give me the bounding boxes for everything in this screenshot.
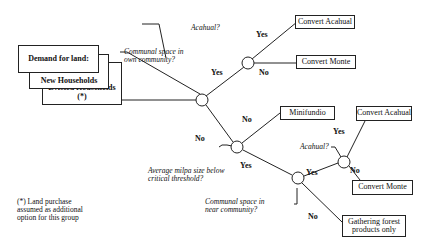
edge-label-own-no: No — [195, 134, 205, 143]
edge-label-milpa-no: No — [242, 115, 252, 124]
outcome-minifundio: Minifundio — [280, 106, 335, 120]
outcome-label: Convert Monte — [302, 58, 351, 66]
edge-label-acahual-top-yes: Yes — [256, 30, 268, 39]
edge-label-near-no: No — [308, 212, 318, 221]
demand-for-land-box: Demand for land: — [18, 45, 99, 73]
edge-label-near-yes: Yes — [306, 168, 318, 177]
outcome-convert-monte-bottom: Convert Monte — [352, 180, 413, 195]
node-near-community — [292, 172, 304, 184]
node-acahual-bottom — [338, 156, 350, 168]
outcome-convert-monte-top: Convert Monte — [296, 55, 356, 69]
outcome-label: Convert Monte — [358, 183, 407, 191]
node-own-community — [196, 94, 208, 106]
demand-for-land-title: Demand for land: — [28, 55, 89, 63]
question-acahual-top: Acahual? — [191, 24, 220, 32]
footnote: (*) Land purchase assumed as additional … — [17, 198, 89, 222]
outcome-label: Gathering forest products only — [343, 218, 405, 235]
new-households-label: New Households — [41, 77, 98, 85]
question-milpa-threshold: Average milpa size below critical thresh… — [148, 167, 238, 183]
question-own-community: Communal space in own community? — [124, 48, 194, 64]
edge-label-own-yes: Yes — [211, 68, 223, 77]
edge-label-acahual-top-no: No — [259, 68, 269, 77]
outcome-label: Minifundio — [289, 109, 325, 117]
node-milpa-threshold — [231, 141, 243, 153]
node-acahual-top — [242, 57, 254, 69]
outcome-gathering-forest-products: Gathering forest products only — [342, 215, 406, 237]
outcome-label: Convert Acahual — [298, 18, 352, 26]
edge-label-milpa-yes: Yes — [240, 161, 252, 170]
edge-label-acahual-bottom-yes: Yes — [333, 127, 345, 136]
outcome-label: Convert Acahual — [357, 109, 411, 117]
edge-label-acahual-bottom-no: No — [350, 166, 360, 175]
outcome-convert-acahual-top: Convert Acahual — [295, 15, 355, 29]
question-near-community: Communal space in near community? — [205, 198, 275, 214]
question-acahual-bottom: Acahual? — [300, 143, 329, 151]
outcome-convert-acahual-bottom: Convert Acahual — [356, 106, 412, 121]
